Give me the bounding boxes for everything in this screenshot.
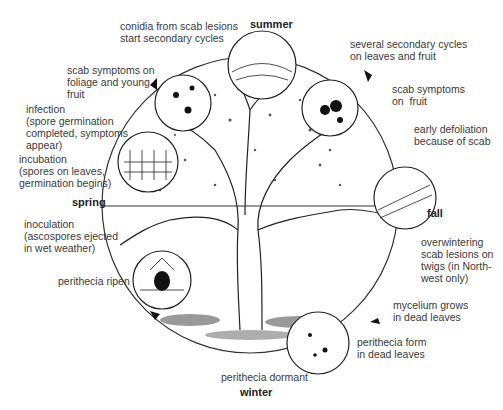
inset-conidia [228,31,296,99]
arrow-icon [364,70,372,82]
arrow-icon [370,318,380,324]
label-incubation: incubation (spores on leaves, germinatio… [19,153,111,189]
label-mycelium: mycelium grows in dead leaves [393,299,468,323]
label-conidia: conidia from scab lesions start secondar… [120,20,238,44]
label-perithecia-ripen: perithecia ripen [58,275,130,287]
season-summer: summer [250,18,293,30]
label-inoculation: inoculation (ascospores ejected in wet w… [24,218,118,254]
label-perithecia-form: perithecia form in dead leaves [357,336,426,360]
inset-fruit-symptoms [302,80,358,136]
season-winter: winter [240,386,272,398]
season-fall: fall [427,207,443,219]
label-symptoms-foliage: scab symptoms on foliage and young fruit [67,64,155,100]
label-overwintering: overwintering scab lesions on twigs (in … [421,236,493,284]
label-secondary-cycles: several secondary cycles on leaves and f… [350,38,467,62]
inset-dead-leaf [287,312,349,374]
inset-leaf-symptoms [155,75,211,131]
label-symptoms-fruit: scab symptoms on fruit [392,83,465,107]
season-spring: spring [72,196,106,208]
label-infection: infection (spore germination completed, … [26,103,128,151]
label-defoliation: early defoliation because of scab [414,123,490,147]
inset-twig-lesion [374,167,436,229]
label-perithecia-dormant: perithecia dormant [221,371,308,383]
